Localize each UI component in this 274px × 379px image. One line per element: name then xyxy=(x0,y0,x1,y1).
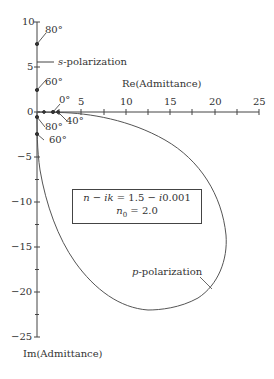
x-tick-25: 25 xyxy=(253,97,266,107)
angle-label-s60: 60° xyxy=(45,77,63,87)
angle-label-0: 0° xyxy=(59,95,70,105)
parameter-line-1: n − ik = 1.5 − i0.001 xyxy=(77,191,197,204)
parameter-line-2: n0 = 2.0 xyxy=(77,204,197,222)
angle-label-40: 40° xyxy=(66,116,84,126)
s-polarization-label: s-polarization xyxy=(58,57,127,67)
y-tick-0: 0 xyxy=(27,107,33,117)
y-tick-m15: −15 xyxy=(11,242,32,252)
y-axis-title: Im(Admittance) xyxy=(23,349,103,359)
y-tick-m10: −10 xyxy=(11,197,32,207)
y-tick-m20: −20 xyxy=(11,287,32,297)
x-tick-10: 10 xyxy=(120,97,133,107)
y-tick-10: 10 xyxy=(22,17,35,27)
x-tick-15: 15 xyxy=(164,97,177,107)
y-tick-5: 5 xyxy=(27,62,33,72)
angle-label-p60: 60° xyxy=(49,135,67,145)
x-axis-title: Re(Admittance) xyxy=(122,79,202,89)
angle-label-p80: 80° xyxy=(45,122,63,132)
y-tick-m25: −25 xyxy=(11,332,32,342)
parameter-box: n − ik = 1.5 − i0.001 n0 = 2.0 xyxy=(72,189,202,224)
angle-label-s80: 80° xyxy=(45,25,63,35)
y-tick-m5: −5 xyxy=(17,152,32,162)
x-tick-20: 20 xyxy=(209,97,222,107)
p-polarization-leader xyxy=(200,277,212,289)
x-tick-5: 5 xyxy=(78,97,84,107)
p-polarization-label: p-polarization xyxy=(132,267,202,277)
